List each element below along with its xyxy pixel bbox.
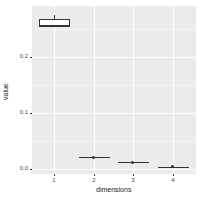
median-1 xyxy=(39,25,70,26)
y-tick-label: 0.2 xyxy=(8,53,28,59)
gridline-major xyxy=(32,113,196,114)
x-tick-label: 3 xyxy=(128,177,138,183)
y-tick-mark xyxy=(30,169,32,170)
gridline-minor xyxy=(32,141,196,142)
y-tick-mark xyxy=(30,113,32,114)
gridline-major xyxy=(32,169,196,170)
gridline-major xyxy=(32,57,196,58)
y-axis-title: value xyxy=(2,83,9,100)
point-3 xyxy=(131,161,134,164)
point-2 xyxy=(92,156,95,159)
x-tick-mark xyxy=(133,174,134,176)
gridline-vertical xyxy=(94,6,95,174)
gridline-minor xyxy=(32,85,196,86)
x-tick-label: 4 xyxy=(168,177,178,183)
gridline-vertical xyxy=(54,6,55,174)
y-tick-label: 0.0 xyxy=(8,165,28,171)
x-tick-mark xyxy=(94,174,95,176)
x-tick-mark xyxy=(173,174,174,176)
y-tick-label: 0.1 xyxy=(8,109,28,115)
gridline-vertical xyxy=(133,6,134,174)
point-4 xyxy=(171,165,174,168)
x-axis-title: dimensions xyxy=(96,186,131,193)
x-tick-mark xyxy=(54,174,55,176)
y-tick-mark xyxy=(30,57,32,58)
gridline-minor xyxy=(32,29,196,30)
x-tick-label: 1 xyxy=(49,177,59,183)
gridline-vertical xyxy=(173,6,174,174)
x-tick-label: 2 xyxy=(89,177,99,183)
plot-panel xyxy=(32,6,196,174)
